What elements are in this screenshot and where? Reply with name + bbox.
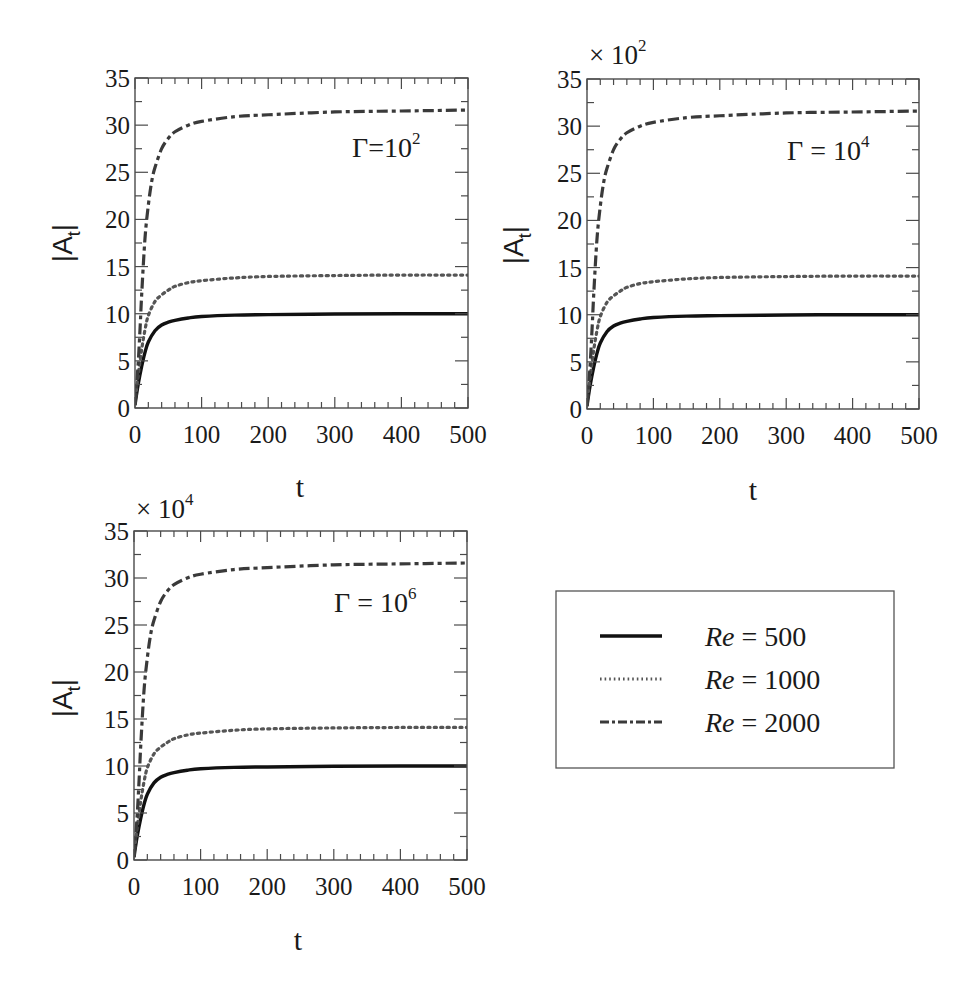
x-tick-label: 200 bbox=[249, 421, 287, 448]
panel-top-right: 010020030040050005101520253035t|At|Γ = 1… bbox=[498, 36, 938, 506]
y-tick-label: 30 bbox=[104, 565, 129, 592]
x-tick-label: 200 bbox=[701, 422, 739, 449]
x-tick-label: 500 bbox=[448, 873, 486, 900]
x-tick-label: 300 bbox=[316, 421, 354, 448]
legend: Re = 500Re = 1000Re = 2000 bbox=[556, 591, 894, 768]
x-tick-label: 100 bbox=[635, 422, 673, 449]
x-tick-label: 300 bbox=[767, 422, 805, 449]
plot-frame bbox=[587, 79, 919, 409]
y-tick-label: 35 bbox=[557, 66, 582, 93]
x-tick-label: 0 bbox=[128, 873, 141, 900]
scale-multiplier: × 104 bbox=[136, 490, 194, 524]
y-axis-label: |At| bbox=[498, 226, 535, 264]
plot-frame bbox=[135, 78, 468, 408]
gamma-annotation: Γ=102 bbox=[352, 129, 420, 163]
y-tick-label: 15 bbox=[557, 255, 582, 282]
plot-area bbox=[134, 563, 467, 857]
plot-frame bbox=[134, 531, 467, 860]
scale-multiplier: × 102 bbox=[589, 36, 646, 70]
series-line-re-1000 bbox=[135, 275, 468, 403]
y-tick-label: 35 bbox=[105, 65, 130, 92]
gamma-annotation: Γ = 104 bbox=[787, 132, 870, 166]
y-tick-label: 5 bbox=[117, 800, 130, 827]
gamma-annotation: Γ = 106 bbox=[334, 584, 416, 618]
plot-area bbox=[587, 111, 919, 406]
figure: 010020030040050005101520253035t|At|Γ=102… bbox=[0, 0, 972, 989]
x-axis-label: t bbox=[294, 923, 303, 956]
panel-bottom-left: 010020030040050005101520253035t|At|Γ = 1… bbox=[47, 490, 486, 956]
y-tick-label: 0 bbox=[117, 847, 130, 874]
y-tick-label: 35 bbox=[104, 518, 129, 545]
x-tick-label: 400 bbox=[834, 422, 872, 449]
series-line-re-2000 bbox=[135, 110, 468, 403]
x-tick-label: 200 bbox=[248, 873, 286, 900]
y-tick-label: 10 bbox=[105, 301, 130, 328]
y-tick-label: 25 bbox=[104, 612, 129, 639]
y-tick-label: 20 bbox=[557, 207, 582, 234]
x-tick-label: 500 bbox=[900, 422, 938, 449]
y-tick-label: 10 bbox=[557, 302, 582, 329]
y-tick-label: 5 bbox=[118, 348, 131, 375]
y-tick-label: 5 bbox=[570, 349, 583, 376]
y-tick-label: 10 bbox=[104, 753, 129, 780]
x-axis-label: t bbox=[296, 470, 305, 503]
y-tick-label: 15 bbox=[105, 254, 130, 281]
x-tick-label: 400 bbox=[382, 873, 420, 900]
y-axis-label: |At| bbox=[47, 224, 84, 262]
y-tick-label: 20 bbox=[105, 206, 130, 233]
series-line-re-1000 bbox=[587, 276, 919, 404]
y-axis-label: |At| bbox=[47, 679, 84, 717]
y-tick-label: 0 bbox=[118, 395, 131, 422]
legend-label: Re = 500 bbox=[704, 621, 806, 652]
series-line-re-500 bbox=[135, 314, 468, 405]
x-axis-label: t bbox=[749, 473, 758, 506]
x-tick-label: 500 bbox=[449, 421, 487, 448]
x-tick-label: 300 bbox=[315, 873, 353, 900]
y-tick-label: 0 bbox=[570, 396, 583, 423]
y-tick-label: 20 bbox=[104, 659, 129, 686]
series-line-re-2000 bbox=[587, 111, 919, 404]
x-tick-label: 100 bbox=[182, 873, 220, 900]
legend-label: Re = 1000 bbox=[704, 664, 820, 695]
panel-top-left: 010020030040050005101520253035t|At|Γ=102 bbox=[47, 65, 487, 503]
x-tick-label: 0 bbox=[129, 421, 142, 448]
y-tick-label: 25 bbox=[557, 160, 582, 187]
plot-area bbox=[135, 110, 468, 405]
y-tick-label: 15 bbox=[104, 706, 129, 733]
y-tick-label: 25 bbox=[105, 159, 130, 186]
series-line-re-2000 bbox=[134, 563, 467, 855]
series-line-re-500 bbox=[134, 766, 467, 857]
x-tick-label: 0 bbox=[581, 422, 594, 449]
x-tick-label: 100 bbox=[183, 421, 221, 448]
series-line-re-1000 bbox=[134, 727, 467, 855]
y-tick-label: 30 bbox=[557, 113, 582, 140]
y-tick-label: 30 bbox=[105, 112, 130, 139]
series-line-re-500 bbox=[587, 315, 919, 406]
x-tick-label: 400 bbox=[383, 421, 421, 448]
legend-label: Re = 2000 bbox=[704, 707, 820, 738]
